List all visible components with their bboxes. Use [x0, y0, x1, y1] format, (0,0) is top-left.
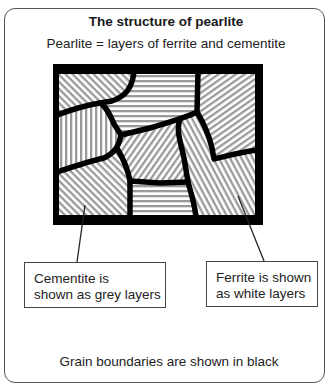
cementite-label-box: Cementite is shown as grey layers: [24, 262, 166, 308]
ferrite-label-box: Ferrite is shown as white layers: [206, 261, 318, 307]
pearlite-microstructure-diagram: [0, 0, 332, 390]
cementite-label-line2: shown as grey layers: [34, 287, 165, 303]
grain-boundary-caption: Grain boundaries are shown in black: [0, 354, 332, 369]
ferrite-label-line2: as white layers: [216, 286, 317, 302]
grain-bottom-center: [130, 181, 196, 215]
cementite-label-line1: Cementite is: [34, 271, 165, 287]
ferrite-label-line1: Ferrite is shown: [216, 270, 317, 286]
